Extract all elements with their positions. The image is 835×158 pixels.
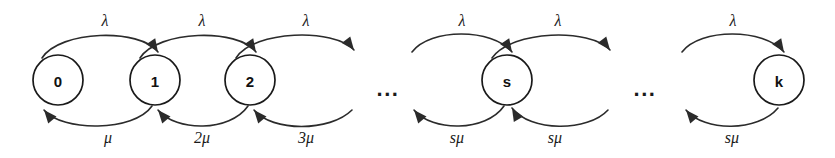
state-node-0: 0 <box>33 55 83 105</box>
service-arc <box>158 106 248 126</box>
service-arc <box>44 106 152 126</box>
rate-label-mu-s-sm1: sμ <box>450 129 464 147</box>
ellipsis-left-icon: ... <box>377 76 400 101</box>
arrowhead-left-icon <box>512 108 523 122</box>
arrowhead-right-icon <box>500 38 512 52</box>
state-label: k <box>775 73 784 90</box>
state-label: 0 <box>54 73 62 90</box>
rate-label-lambda-2-3: λ <box>302 12 310 29</box>
rate-label-mu-sp1-s: sμ <box>548 129 562 147</box>
state-node-1: 1 <box>130 55 180 105</box>
rate-label-mu-3-2: 3μ <box>297 129 314 147</box>
state-node-k: k <box>754 55 804 105</box>
state-node-s: s <box>482 55 532 105</box>
arrowhead-left-icon <box>414 110 426 123</box>
service-arc <box>254 110 352 127</box>
service-arc <box>512 108 608 126</box>
arrowhead-left-icon <box>686 110 698 123</box>
rate-label-mu-k-km1: sμ <box>725 129 739 147</box>
service-transition-arc-group <box>44 106 778 127</box>
rate-label-lambda-0-1: λ <box>101 12 109 29</box>
rate-label-mu-1-0: μ <box>103 129 112 147</box>
arrowhead-left-icon <box>158 110 170 123</box>
arrowhead-left-icon <box>44 110 56 123</box>
state-node-2: 2 <box>225 55 275 105</box>
ellipsis-right-icon: ... <box>634 76 657 101</box>
service-arc <box>414 106 504 126</box>
rate-label-lambda-s-sp1: λ <box>554 12 562 29</box>
arrowhead-right-icon <box>342 36 354 50</box>
arrowhead-right-icon <box>598 36 610 50</box>
arrival-arc <box>412 34 512 52</box>
state-label: s <box>503 73 511 90</box>
rate-label-lambda-sm1-s: λ <box>458 12 466 29</box>
state-label: 2 <box>246 73 254 90</box>
arrowhead-left-icon <box>254 110 266 123</box>
state-node-group: 012sk <box>33 55 804 105</box>
service-arc <box>686 108 778 126</box>
arrowhead-right-icon <box>772 38 784 52</box>
rate-label-lambda-1-2: λ <box>198 12 206 29</box>
diagram-canvas: 012sk ...... λλλλλλμ2μ3μsμsμsμ <box>0 0 835 158</box>
arrival-arc <box>682 34 784 52</box>
state-transition-diagram: 012sk ...... λλλλλλμ2μ3μsμsμsμ <box>0 0 835 158</box>
rate-label-mu-2-1: 2μ <box>194 129 210 147</box>
rate-label-lambda-km1-k: λ <box>729 12 737 29</box>
state-label: 1 <box>151 73 159 90</box>
